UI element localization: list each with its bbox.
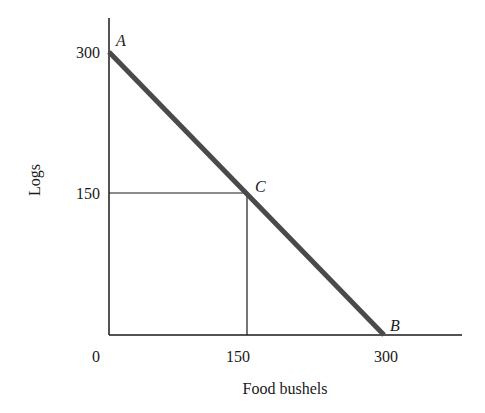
x-tick-label-0: 0 xyxy=(92,348,100,365)
y-tick-label-300: 300 xyxy=(76,44,100,61)
ppf-chart: 300 150 0 150 300 Food bushels Logs A C … xyxy=(0,0,485,413)
point-label-b: B xyxy=(390,317,400,334)
x-tick-label-150: 150 xyxy=(226,348,250,365)
point-label-a: A xyxy=(115,32,126,49)
x-tick-label-300: 300 xyxy=(374,348,398,365)
y-axis-title: Logs xyxy=(26,164,44,196)
point-label-c: C xyxy=(255,178,266,195)
x-axis-title: Food bushels xyxy=(243,380,328,397)
y-tick-label-150: 150 xyxy=(76,185,100,202)
